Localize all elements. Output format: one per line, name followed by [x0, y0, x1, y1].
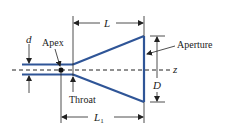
apex-dot — [58, 67, 63, 72]
horn-antenna-diagram: z d Apex Throat L L1 — [0, 0, 231, 130]
apex-label: Apex — [42, 37, 64, 48]
L1-label: L1 — [93, 111, 104, 125]
horn-body — [73, 36, 144, 102]
D-label: D — [152, 79, 161, 91]
D-dimension — [150, 36, 165, 102]
diagram-canvas: z d Apex Throat L L1 — [0, 0, 231, 130]
aperture-label: Aperture — [177, 39, 213, 50]
z-label: z — [172, 63, 178, 75]
throat-label: Throat — [69, 94, 96, 105]
aperture-pointer — [147, 46, 175, 54]
d-label: d — [26, 33, 32, 45]
L-label: L — [103, 17, 110, 29]
